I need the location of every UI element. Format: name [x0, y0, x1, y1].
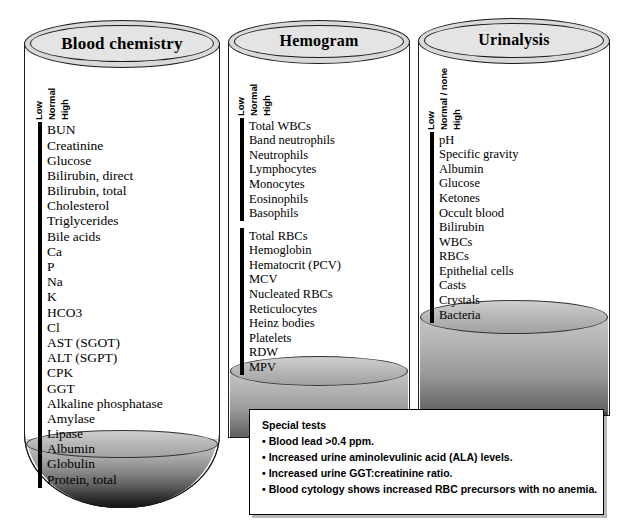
- axis-labels-hemogram: Low Normal High: [240, 76, 288, 116]
- axis-label-normal-none: Normal / none: [438, 68, 449, 130]
- tube-hemogram: Hemogram Low Normal High Total WBCsBand …: [228, 20, 410, 440]
- result-row: Epithelial cells: [431, 264, 520, 279]
- result-label: Crystals: [434, 293, 520, 308]
- result-row: Glucose: [431, 176, 520, 191]
- results-grid-urinalysis: pHSpecific gravityAlbuminGlucoseKetonesO…: [430, 132, 520, 323]
- special-tests-box: Special tests •Blood lead >0.4 ppm.•Incr…: [249, 409, 604, 515]
- result-row: Ca: [39, 244, 164, 259]
- result-row: P: [39, 259, 164, 274]
- special-test-item: •Increased urine aminolevulinic acid (AL…: [262, 450, 591, 466]
- special-test-item: •Increased urine GGT:creatinine ratio.: [262, 466, 591, 482]
- result-row: Globulin: [39, 457, 164, 472]
- result-label: Specific gravity: [434, 147, 520, 162]
- result-row: Specific gravity: [431, 147, 520, 162]
- result-label: Globulin: [42, 457, 164, 472]
- result-label: Hemoglobin: [244, 243, 342, 258]
- result-label: Lipase: [42, 426, 164, 441]
- result-row: Occult blood: [431, 205, 520, 220]
- result-label: Glucose: [42, 153, 164, 168]
- result-row: Triglycerides: [39, 214, 164, 229]
- result-label: Protein, total: [42, 472, 164, 487]
- tube-urinalysis: Urinalysis Low Normal / none High pHSpec…: [418, 18, 610, 418]
- result-label: Casts: [434, 278, 520, 293]
- result-label: Monocytes: [244, 177, 336, 192]
- result-row: Nucleated RBCs: [241, 287, 342, 302]
- result-row: Platelets: [241, 331, 342, 346]
- result-label: Total WBCs: [244, 119, 336, 134]
- bullet-icon: •: [262, 435, 266, 447]
- result-row: Na: [39, 274, 164, 289]
- result-label: Creatinine: [42, 138, 164, 153]
- result-row: Casts: [431, 278, 520, 293]
- result-row: Bilirubin, total: [39, 183, 164, 198]
- result-row: Basophils: [241, 206, 336, 221]
- result-label: Alkaline phosphatase: [42, 396, 164, 411]
- result-label: Reticulocytes: [244, 301, 342, 316]
- special-tests-list: •Blood lead >0.4 ppm.•Increased urine am…: [262, 434, 591, 498]
- axis-label-normal: Normal: [46, 88, 57, 120]
- result-label: Heinz bodies: [244, 316, 342, 331]
- result-row: AST (SGOT): [39, 335, 164, 350]
- result-row: Cholesterol: [39, 198, 164, 213]
- rim-hemogram: Hemogram: [228, 20, 410, 64]
- figure-canvas: Blood chemistry Low Normal High BUNCreat…: [0, 0, 629, 528]
- result-label: Band neutrophils: [244, 133, 336, 148]
- result-row: Bile acids: [39, 229, 164, 244]
- results-grid-hemogram-wbc: Total WBCsBand neutrophilsNeutrophilsLym…: [240, 118, 336, 221]
- special-tests-title: Special tests: [262, 419, 591, 431]
- result-label: Glucose: [434, 176, 520, 191]
- result-label: RBCs: [434, 249, 520, 264]
- result-label: Hematocrit (PCV): [244, 258, 342, 273]
- result-row: pH: [431, 133, 520, 148]
- result-label: Triglycerides: [42, 214, 164, 229]
- result-label: Albumin: [434, 162, 520, 177]
- result-label: Epithelial cells: [434, 264, 520, 279]
- result-row: Creatinine: [39, 138, 164, 153]
- result-label: Amylase: [42, 411, 164, 426]
- result-row: Ketones: [431, 191, 520, 206]
- axis-labels-blood-chemistry: Low Normal High: [38, 80, 86, 120]
- bullet-icon: •: [262, 451, 266, 463]
- axis-label-normal: Normal: [248, 84, 259, 116]
- result-label: Na: [42, 274, 164, 289]
- result-label: Neutrophils: [244, 148, 336, 163]
- result-row: MPV: [241, 360, 342, 375]
- result-row: Monocytes: [241, 177, 336, 192]
- result-label: Bilirubin, total: [42, 183, 164, 198]
- result-label: K: [42, 290, 164, 305]
- result-row: GGT: [39, 381, 164, 396]
- rim-blood-chemistry: Blood chemistry: [24, 20, 220, 68]
- result-row: Hemoglobin: [241, 243, 342, 258]
- result-row: Glucose: [39, 153, 164, 168]
- result-row: HCO3: [39, 305, 164, 320]
- result-label: Cholesterol: [42, 198, 164, 213]
- rim-urinalysis: Urinalysis: [418, 18, 610, 64]
- result-row: Reticulocytes: [241, 301, 342, 316]
- result-row: Crystals: [431, 293, 520, 308]
- result-label: AST (SGOT): [42, 335, 164, 350]
- result-row: Bacteria: [431, 308, 520, 323]
- result-label: Eosinophils: [244, 191, 336, 206]
- bullet-icon: •: [262, 467, 266, 479]
- result-row: Albumin: [431, 162, 520, 177]
- axis-label-high: High: [59, 99, 70, 120]
- results-grid-blood-chemistry: BUNCreatinineGlucoseBilirubin, directBil…: [38, 122, 164, 488]
- result-label: MCV: [244, 272, 342, 287]
- result-label: P: [42, 259, 164, 274]
- result-label: Nucleated RBCs: [244, 287, 342, 302]
- result-label: ALT (SGPT): [42, 350, 164, 365]
- result-row: Cl: [39, 320, 164, 335]
- tube-blood-chemistry: Blood chemistry Low Normal High BUNCreat…: [24, 20, 220, 512]
- result-row: RBCs: [431, 249, 520, 264]
- result-row: Alkaline phosphatase: [39, 396, 164, 411]
- axis-label-high: High: [451, 109, 462, 130]
- result-row: RDW: [241, 345, 342, 360]
- result-label: Basophils: [244, 206, 336, 221]
- result-label: pH: [434, 133, 520, 148]
- result-label: Cl: [42, 320, 164, 335]
- result-row: Eosinophils: [241, 191, 336, 206]
- result-label: RDW: [244, 345, 342, 360]
- panel-title-hemogram: Hemogram: [229, 32, 409, 50]
- result-row: Albumin: [39, 441, 164, 456]
- axis-label-high: High: [261, 95, 272, 116]
